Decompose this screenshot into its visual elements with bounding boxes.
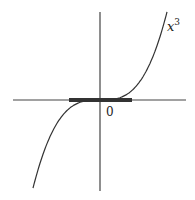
origin-label: 0 — [106, 105, 114, 119]
cubic-function-diagram: x3 0 — [0, 0, 195, 200]
function-label-exponent: 3 — [174, 17, 180, 27]
function-label: x3 — [167, 17, 180, 34]
